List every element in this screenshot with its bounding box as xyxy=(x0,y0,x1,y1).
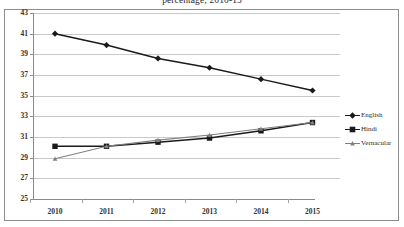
data-point-diamond-marker xyxy=(155,55,161,61)
series-layer xyxy=(0,0,404,227)
series-hindi xyxy=(52,120,315,149)
data-point-triangle-marker xyxy=(350,141,355,145)
data-point-diamond-marker xyxy=(349,112,355,118)
data-point-diamond-marker xyxy=(258,76,264,82)
data-point-diamond-marker xyxy=(103,42,109,48)
legend-key-square-icon xyxy=(345,124,360,135)
legend-item-hindi[interactable]: Hindi xyxy=(345,122,401,136)
legend-item-label: English xyxy=(360,111,382,119)
data-point-square-marker xyxy=(350,126,356,132)
legend-key-triangle-icon xyxy=(345,138,360,149)
data-point-diamond-marker xyxy=(206,65,212,71)
legend-item-label: Vernacular xyxy=(360,139,391,147)
data-point-diamond-marker xyxy=(52,31,58,37)
data-point-square-marker xyxy=(52,144,57,149)
legend-key-marker xyxy=(347,138,358,149)
legend-item-vernacular[interactable]: Vernacular xyxy=(345,136,401,150)
data-point-diamond-marker xyxy=(309,87,315,93)
legend-key-marker xyxy=(347,110,358,121)
series-english xyxy=(52,31,316,94)
legend-key-diamond-icon xyxy=(345,110,360,121)
chart-legend: EnglishHindiVernacular xyxy=(345,108,401,150)
legend-key-marker xyxy=(347,124,358,135)
legend-item-english[interactable]: English xyxy=(345,108,401,122)
legend-item-label: Hindi xyxy=(360,125,377,133)
series-line xyxy=(55,34,313,91)
series-line xyxy=(55,123,313,147)
